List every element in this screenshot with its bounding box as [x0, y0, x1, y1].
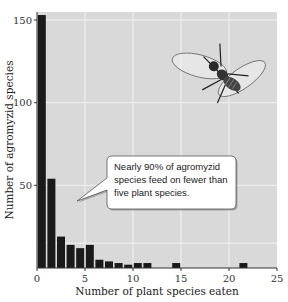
- bar: [172, 263, 180, 268]
- bar: [76, 248, 84, 268]
- bar: [47, 179, 55, 268]
- bar: [105, 261, 113, 268]
- bar: [143, 263, 151, 268]
- annotation-line-2: species feed on fewer than: [114, 174, 228, 185]
- y-tick-label: 150: [13, 15, 32, 26]
- y-axis-ticks: 50100150: [13, 15, 37, 191]
- x-tick-label: 5: [82, 273, 88, 284]
- bar: [67, 245, 75, 268]
- x-tick-label: 25: [271, 273, 284, 284]
- x-tick-label: 10: [127, 273, 140, 284]
- x-tick-label: 15: [175, 273, 188, 284]
- bar: [57, 237, 65, 268]
- y-axis-title: Number of agromyzid species: [3, 60, 15, 219]
- x-tick-label: 20: [223, 273, 236, 284]
- bar: [95, 260, 103, 268]
- x-tick-label: 0: [34, 273, 40, 284]
- y-tick-label: 100: [13, 97, 32, 108]
- bar-chart: 0510152025 50100150 Number of plant spec…: [0, 0, 288, 302]
- annotation-line-1: Nearly 90% of agromyzid: [114, 161, 220, 172]
- bar: [86, 245, 94, 268]
- bar: [239, 263, 247, 268]
- bar: [38, 15, 46, 268]
- y-tick-label: 50: [19, 180, 32, 191]
- x-axis-ticks: 0510152025: [34, 268, 284, 284]
- x-axis-title: Number of plant species eaten: [75, 285, 239, 297]
- bar: [134, 263, 142, 268]
- plot-area: [37, 12, 277, 268]
- bar: [115, 263, 123, 268]
- annotation-line-3: five plant species.: [114, 187, 190, 198]
